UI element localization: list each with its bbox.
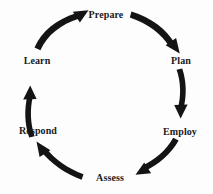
edge-plan-to-employ-arrowhead — [174, 104, 187, 118]
edge-learn-to-prepare-arc — [35, 13, 80, 50]
edge-assess-to-respond-arc — [41, 148, 84, 180]
cycle-node-respond[interactable]: Respond — [19, 125, 57, 136]
edge-learn-to-prepare — [35, 10, 89, 50]
edge-respond-to-learn-arrowhead — [23, 86, 36, 100]
edge-employ-to-assess-arc — [143, 138, 179, 171]
cycle-diagram: Prepare Plan Employ Assess Respond Learn — [0, 0, 213, 194]
cycle-node-prepare[interactable]: Prepare — [89, 9, 124, 20]
cycle-arrows-svg — [0, 0, 213, 194]
cycle-node-employ[interactable]: Employ — [163, 126, 197, 137]
edge-prepare-to-plan-arc — [130, 12, 175, 48]
cycle-node-assess[interactable]: Assess — [96, 172, 124, 183]
edge-assess-to-respond — [37, 142, 84, 180]
edge-prepare-to-plan — [130, 12, 180, 54]
edge-plan-to-employ-arc — [177, 69, 186, 109]
cycle-node-learn[interactable]: Learn — [24, 55, 51, 66]
edge-employ-to-assess — [136, 138, 179, 175]
cycle-node-plan[interactable]: Plan — [171, 55, 191, 66]
edge-plan-to-employ — [174, 69, 187, 119]
